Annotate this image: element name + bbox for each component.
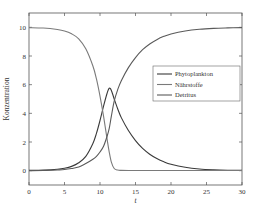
y-tick-label: 2	[23, 139, 27, 147]
x-tick-label: 20	[168, 188, 176, 196]
x-axis-label: t	[134, 196, 137, 205]
x-tick-label: 10	[97, 188, 105, 196]
y-tick-label: 6	[23, 81, 27, 89]
legend-label: Detritus	[175, 91, 196, 98]
x-tick-label: 0	[27, 188, 31, 196]
y-axis-label: Konzentration	[2, 77, 11, 120]
concentration-chart: 051015202530 0246810 t Konzentration Phy…	[0, 0, 254, 205]
legend: PhytoplanktonNährstoffeDetritus	[153, 66, 240, 101]
legend-label: Nährstoffe	[175, 81, 203, 88]
x-tick-label: 25	[203, 188, 211, 196]
x-tick-label: 30	[239, 188, 247, 196]
y-tick-label: 0	[23, 167, 27, 175]
x-tick-label: 15	[132, 188, 140, 196]
legend-label: Phytoplankton	[175, 70, 214, 77]
y-tick-label: 4	[23, 110, 27, 118]
y-tick-label: 8	[23, 53, 27, 61]
y-tick-label: 10	[19, 24, 27, 32]
x-tick-label: 5	[63, 188, 67, 196]
